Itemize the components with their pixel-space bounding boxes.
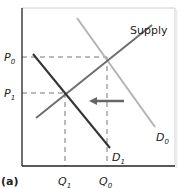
x-tick-q1: Q1 xyxy=(58,175,71,189)
x-tick-q0: Q0 xyxy=(99,175,113,189)
d0-label: D0 xyxy=(156,131,169,146)
y-tick-p1: P1 xyxy=(4,87,15,102)
y-tick-p0: P0 xyxy=(4,51,16,66)
supply-demand-diagram: Supply D0 D1 P0 P1 Q1 Q0 (a) xyxy=(0,0,183,189)
panel-label: (a) xyxy=(1,175,18,188)
supply-curve xyxy=(36,25,152,118)
d1-label: D1 xyxy=(112,151,125,166)
supply-label: Supply xyxy=(130,24,168,37)
